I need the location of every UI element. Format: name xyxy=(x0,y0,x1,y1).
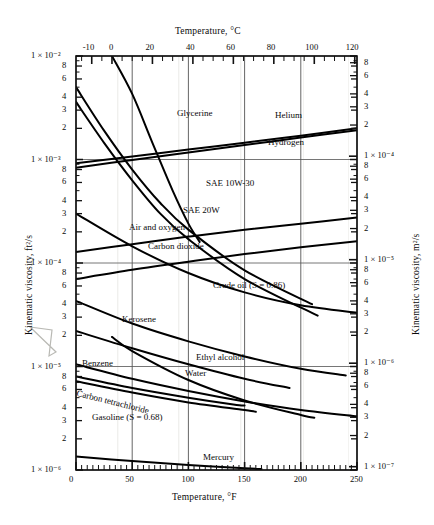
right-axis-title: Kinematic viscosity, m²/s xyxy=(411,234,421,335)
curve-label-crude-oil-s-0-86: Crude oil (S = 0.86) xyxy=(213,280,285,290)
right-minor-label: 3 xyxy=(364,411,368,421)
right-minor-label: 4 xyxy=(364,398,368,408)
left-decade-label-4: 1 × 10⁻⁶ xyxy=(31,464,61,474)
right-minor-label: 2 xyxy=(364,430,368,440)
left-minor-label: 2 xyxy=(62,433,66,443)
left-minor-label: 6 xyxy=(62,73,66,83)
left-decade-label-3: 1 × 10⁻⁵ xyxy=(31,361,61,371)
left-minor-label: 8 xyxy=(62,371,66,381)
curve-label-sae-20w: SAE 20W xyxy=(183,205,220,215)
right-axis-title-text: Kinematic viscosity, m²/s xyxy=(411,234,421,335)
right-minor-label: 3 xyxy=(364,308,368,318)
right-minor-label: 8 xyxy=(364,160,368,170)
curve-label-helium: Helium xyxy=(275,110,302,120)
right-minor-label: 3 xyxy=(364,204,368,214)
right-decade-label-2: 1 × 10⁻⁶ xyxy=(364,357,394,367)
bottom-axis-title: Temperature, °F xyxy=(172,492,237,502)
bottom-tick-label-4: 200 xyxy=(294,474,307,484)
left-axis-title-text: Kinematic viscosity, ft²/s xyxy=(24,235,34,335)
curve-label-water: Water xyxy=(185,368,206,378)
left-decade-label-0: 1 × 10⁻² xyxy=(31,50,61,60)
top-tick-label-1: 0 xyxy=(109,42,113,52)
bottom-tick-label-5: 250 xyxy=(350,474,363,484)
left-minor-label: 8 xyxy=(62,60,66,70)
left-minor-label: 4 xyxy=(62,195,66,205)
top-tick-label-6: 100 xyxy=(305,42,318,52)
top-tick-label-7: 120 xyxy=(346,42,359,52)
left-minor-label: 6 xyxy=(62,176,66,186)
right-minor-label: 6 xyxy=(364,70,368,80)
left-minor-label: 3 xyxy=(62,415,66,425)
right-decade-label-1: 1 × 10⁻⁵ xyxy=(364,254,394,264)
right-minor-label: 8 xyxy=(364,264,368,274)
left-minor-label: 2 xyxy=(62,122,66,132)
curve-label-gasoline-s-0-68: Gasoline (S = 0.68) xyxy=(92,412,163,422)
right-minor-label: 8 xyxy=(364,367,368,377)
curve-label-hydrogen: Hydrogen xyxy=(268,137,304,147)
left-minor-label: 4 xyxy=(62,91,66,101)
top-tick-label-4: 60 xyxy=(226,42,235,52)
left-minor-label: 6 xyxy=(62,383,66,393)
right-minor-label: 2 xyxy=(364,223,368,233)
left-axis-title: Kinematic viscosity, ft²/s xyxy=(24,235,34,335)
left-minor-label: 2 xyxy=(62,226,66,236)
left-minor-label: 3 xyxy=(62,311,66,321)
right-minor-label: 4 xyxy=(364,191,368,201)
right-decade-label-3: 1 × 10⁻⁷ xyxy=(364,461,394,471)
right-minor-label: 2 xyxy=(364,119,368,129)
curve-label-sae-10w-30: SAE 10W-30 xyxy=(206,178,254,188)
right-minor-label: 6 xyxy=(364,277,368,287)
left-minor-label: 2 xyxy=(62,329,66,339)
right-decade-label-0: 1 × 10⁻⁴ xyxy=(364,150,394,160)
right-minor-label: 6 xyxy=(364,380,368,390)
curve-label-mercury: Mercury xyxy=(203,452,234,462)
left-minor-label: 4 xyxy=(62,298,66,308)
bottom-tick-label-3: 150 xyxy=(238,474,251,484)
curve-label-benzene: Benzene xyxy=(82,358,113,368)
left-minor-label: 3 xyxy=(62,104,66,114)
bottom-tick-label-2: 100 xyxy=(181,474,194,484)
right-minor-label: 6 xyxy=(364,173,368,183)
left-minor-label: 3 xyxy=(62,208,66,218)
top-tick-label-2: 20 xyxy=(145,42,154,52)
right-minor-label: 4 xyxy=(364,88,368,98)
top-tick-label-3: 40 xyxy=(186,42,195,52)
bottom-tick-label-0: 0 xyxy=(69,474,73,484)
top-axis-title: Temperature, °C xyxy=(175,26,241,36)
left-minor-label: 8 xyxy=(62,267,66,277)
bottom-tick-label-1: 50 xyxy=(125,474,134,484)
curve-label-glycerine: Glycerine xyxy=(177,108,212,118)
right-minor-label: 2 xyxy=(364,326,368,336)
top-tick-label-0: -10 xyxy=(83,42,94,52)
left-minor-label: 4 xyxy=(62,402,66,412)
curve-label-carbon-dioxide: Carbon dioxide xyxy=(148,241,204,251)
right-minor-label: 3 xyxy=(364,101,368,111)
left-minor-label: 6 xyxy=(62,280,66,290)
curve-label-ethyl-alcohol: Ethyl alcohol xyxy=(196,352,244,362)
right-minor-label: 8 xyxy=(364,57,368,67)
top-tick-label-5: 80 xyxy=(267,42,276,52)
left-decade-label-1: 1 × 10⁻³ xyxy=(31,154,61,164)
right-minor-label: 4 xyxy=(364,295,368,305)
left-decade-label-2: 1 × 10⁻⁴ xyxy=(31,257,61,267)
left-minor-label: 8 xyxy=(62,164,66,174)
curve-label-air-and-oxygen: Air and oxygen xyxy=(129,222,185,232)
curve-label-kerosene: Kerosene xyxy=(122,314,156,324)
